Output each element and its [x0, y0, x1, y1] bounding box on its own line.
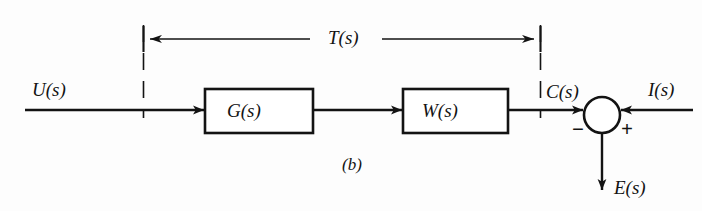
span-label-t: T(s): [328, 28, 359, 47]
sum-sign-negative: −: [572, 119, 584, 140]
sum-sign-positive: +: [621, 119, 633, 140]
block-diagram-figure: T(s) U(s) G(s) W(s) C(s) I(s) E(s) − + (…: [0, 0, 702, 211]
signal-label-i: I(s): [648, 80, 674, 99]
summing-junction: [584, 97, 620, 133]
signal-label-u: U(s): [32, 80, 66, 99]
signal-label-c: C(s): [546, 82, 579, 101]
block-label-g: G(s): [227, 101, 261, 120]
figure-caption: (b): [342, 156, 362, 173]
signal-label-e: E(s): [614, 178, 646, 197]
block-label-w: W(s): [422, 101, 458, 120]
